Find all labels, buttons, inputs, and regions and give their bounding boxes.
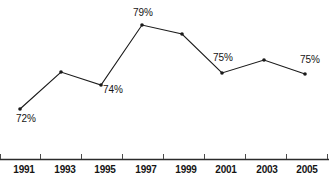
data-point-1993 [59, 70, 63, 74]
data-point-1999 [180, 32, 184, 36]
line-chart: 72% 74% 79% 75% 75% 1991 1993 1995 1997 … [0, 0, 329, 180]
data-point-2005 [303, 72, 307, 76]
data-point-2001 [220, 71, 224, 75]
chart-plot-area [0, 0, 329, 180]
value-label-1991: 72% [16, 113, 36, 124]
value-label-1995: 74% [103, 84, 123, 95]
x-tick-label-2003: 2003 [256, 164, 277, 176]
x-tick-label-1991: 1991 [13, 164, 34, 176]
data-point-markers [18, 23, 307, 111]
value-label-2005: 75% [300, 54, 320, 65]
data-point-1991 [18, 107, 22, 111]
data-point-2003 [262, 58, 266, 62]
series-line-percent [20, 25, 305, 109]
x-tick-label-1997: 1997 [135, 164, 156, 176]
x-tick-label-1999: 1999 [175, 164, 196, 176]
data-point-1997 [140, 23, 144, 27]
x-tick-label-2001: 2001 [215, 164, 236, 176]
x-axis-ticks [1, 154, 328, 159]
value-label-1997: 79% [133, 7, 153, 18]
x-tick-label-1995: 1995 [94, 164, 115, 176]
x-tick-label-2005: 2005 [296, 164, 317, 176]
x-tick-label-1993: 1993 [54, 164, 75, 176]
value-label-2001: 75% [213, 52, 233, 63]
